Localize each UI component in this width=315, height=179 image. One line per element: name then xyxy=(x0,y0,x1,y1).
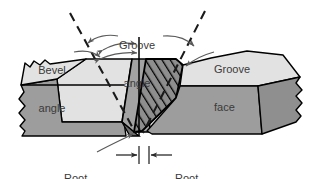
root-opening-dimension-arrows xyxy=(116,146,172,164)
bevel-angle-label: Bevel angle xyxy=(29,39,75,139)
root-face-label: Root face xyxy=(64,147,104,179)
groove-face-label-line2: face xyxy=(214,101,270,114)
bevel-angle-label-line1: Bevel xyxy=(29,64,75,77)
groove-angle-label: Groove angle xyxy=(111,14,163,114)
groove-face-label-line1: Groove xyxy=(214,63,270,76)
groove-angle-label-line2: angle xyxy=(111,77,163,90)
bevel-angle-leader xyxy=(74,51,100,57)
groove-angle-label-line1: Groove xyxy=(111,39,163,52)
groove-face-label: Groove face xyxy=(214,38,270,138)
root-opening-label: Root opening xyxy=(175,147,230,179)
root-face-label-line1: Root xyxy=(64,172,104,179)
groove-weld-diagram: Groove angle Bevel angle Groove face Roo… xyxy=(0,0,315,179)
root-opening-label-line1: Root xyxy=(175,172,230,179)
bevel-angle-label-line2: angle xyxy=(29,102,75,115)
